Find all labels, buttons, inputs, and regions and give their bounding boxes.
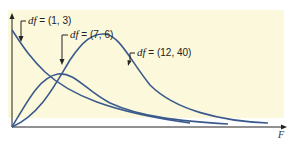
annotation-df-1-3-value: = (1, 3) — [37, 15, 72, 26]
annotation-df-7-6-prefix: df — [70, 28, 79, 40]
annotation-df-12-40-value: = (12, 40) — [146, 47, 192, 58]
annotation-df-1-3-prefix: df — [28, 14, 37, 26]
x-axis-label: F — [278, 129, 284, 140]
plot-background — [8, 10, 284, 118]
annotation-df-1-3: df = (1, 3) — [28, 14, 71, 26]
annotation-df-12-40: df = (12, 40) — [137, 46, 191, 58]
annotation-df-7-6: df = (7, 6) — [70, 28, 113, 40]
annotation-df-12-40-prefix: df — [137, 46, 146, 58]
annotation-df-7-6-value: = (7, 6) — [79, 29, 114, 40]
